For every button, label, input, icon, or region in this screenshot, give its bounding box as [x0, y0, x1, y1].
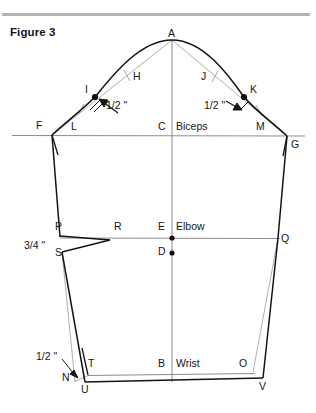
- side-seam-s-u: [62, 252, 85, 382]
- point-label-D: D: [158, 246, 166, 257]
- measurement-elbow-drop: 3/4 ": [24, 240, 45, 251]
- measurement-wrist-inset: 1/2 ": [36, 351, 57, 362]
- tick-under-I-a: [90, 100, 100, 110]
- point-label-K: K: [250, 84, 257, 95]
- point-label-J: J: [201, 71, 206, 82]
- point-label-E: E: [158, 221, 165, 232]
- point-label-S: S: [55, 247, 62, 258]
- point-label-H: H: [133, 71, 141, 82]
- tick-chord-left: [124, 70, 130, 81]
- figure-canvas: Figure 3 A I K H J F L C M G P R E D Q S…: [0, 0, 316, 413]
- point-label-M: M: [256, 121, 265, 132]
- point-dot-D: [169, 250, 174, 255]
- point-label-N: N: [62, 372, 70, 383]
- annotation-biceps: Biceps: [176, 121, 208, 132]
- point-dot-E: [169, 235, 174, 240]
- point-label-T: T: [88, 358, 94, 369]
- point-label-F: F: [36, 120, 42, 131]
- side-seam-g-q: [278, 136, 287, 238]
- point-dot-K: [241, 94, 247, 100]
- annotation-wrist: Wrist: [176, 358, 200, 369]
- point-label-O: O: [239, 358, 247, 369]
- point-label-V: V: [259, 381, 266, 392]
- page-title: Figure 3: [10, 26, 56, 38]
- point-label-L: L: [71, 121, 77, 132]
- measurement-cap-left-inset: 1/2 ": [106, 100, 127, 111]
- point-dot-I: [92, 94, 98, 100]
- annotation-elbow: Elbow: [176, 221, 205, 232]
- point-label-Q: Q: [281, 233, 289, 244]
- chord-a-f: [52, 40, 172, 135]
- measurement-cap-right-inset: 1/2 ": [204, 100, 225, 111]
- point-label-A: A: [168, 28, 175, 39]
- tick-under-K-a: [240, 101, 249, 110]
- point-label-G: G: [291, 139, 299, 150]
- point-label-I: I: [85, 84, 88, 95]
- biceps-line: [12, 136, 305, 137]
- point-label-B: B: [158, 358, 165, 369]
- point-label-R: R: [114, 221, 122, 232]
- tick-chord-right: [212, 71, 218, 82]
- point-label-U: U: [81, 384, 89, 395]
- dart-r-s: [62, 240, 110, 252]
- point-label-C: C: [158, 121, 166, 132]
- wrist-edge-u-v: [85, 378, 263, 382]
- point-label-P: P: [55, 221, 62, 232]
